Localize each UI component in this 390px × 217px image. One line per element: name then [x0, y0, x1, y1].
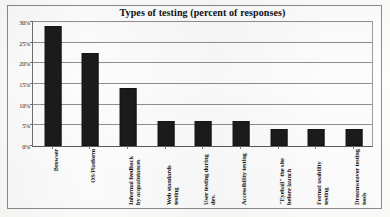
bar-slot	[72, 22, 110, 146]
y-tick-mark	[30, 42, 33, 43]
bar	[346, 129, 363, 146]
x-tick-label: Web standards testing	[165, 149, 179, 205]
y-tick-mark	[30, 83, 33, 84]
x-label-slot: Dreamweaver testing tools	[334, 149, 372, 209]
x-tick-label: Formal usability testing	[315, 149, 329, 205]
x-label-slot: Web standards testing	[146, 149, 184, 209]
bar-slot	[298, 22, 336, 146]
y-tick-label: 20%	[19, 60, 30, 67]
y-tick-label: 10%	[19, 101, 30, 108]
bar	[82, 53, 99, 146]
bar-slot	[109, 22, 147, 146]
chart-figure: Types of testing (percent of responses) …	[0, 0, 390, 217]
x-tick-label: "Eyeball" the site before launch	[278, 149, 292, 205]
x-label-slot: "Eyeball" the site before launch	[259, 149, 297, 209]
x-tick-label: Informal feedback by acquaintances	[127, 149, 141, 205]
y-tick-label: 25%	[19, 39, 30, 46]
bar	[195, 121, 212, 146]
bar-slot	[260, 22, 298, 146]
plot-area: 0%5%10%15%20%25%30%	[32, 21, 373, 147]
bar-slot	[147, 22, 185, 146]
x-label-slot: Informal feedback by acquaintances	[108, 149, 146, 209]
x-label-slot: Browser	[33, 149, 71, 209]
bar-slot	[222, 22, 260, 146]
y-tick-mark	[30, 104, 33, 105]
chart-title: Types of testing (percent of responses)	[32, 7, 373, 18]
x-label-slot: User testing during dev.	[184, 149, 222, 209]
bar	[157, 121, 174, 146]
x-tick-label: Accessibility testing	[240, 149, 247, 205]
y-tick-label: 15%	[19, 81, 30, 88]
bar-slot	[335, 22, 373, 146]
bar	[308, 129, 325, 146]
x-axis-labels: BrowserOS/PlatformInformal feedback by a…	[33, 149, 374, 209]
x-tick-label: Browser	[52, 149, 59, 171]
y-tick-mark	[30, 145, 33, 146]
x-label-slot: Formal usability testing	[297, 149, 335, 209]
bar-series	[34, 22, 371, 146]
y-tick-label: 5%	[22, 122, 30, 129]
y-tick-mark	[30, 124, 33, 125]
x-tick-label: Dreamweaver testing tools	[353, 149, 367, 205]
x-tick-label: User testing during dev.	[202, 149, 216, 205]
x-label-slot: OS/Platform	[71, 149, 109, 209]
bar	[233, 121, 250, 146]
y-tick-mark	[30, 62, 33, 63]
bar	[270, 129, 287, 146]
x-label-slot: Accessibility testing	[221, 149, 259, 209]
bar	[120, 88, 137, 146]
bar-slot	[185, 22, 223, 146]
x-tick-label: OS/Platform	[89, 149, 96, 183]
y-tick-label: 30%	[19, 19, 30, 26]
y-tick-label: 0%	[22, 143, 30, 150]
bar-slot	[34, 22, 72, 146]
y-tick-mark	[30, 21, 33, 22]
bar	[44, 26, 61, 146]
